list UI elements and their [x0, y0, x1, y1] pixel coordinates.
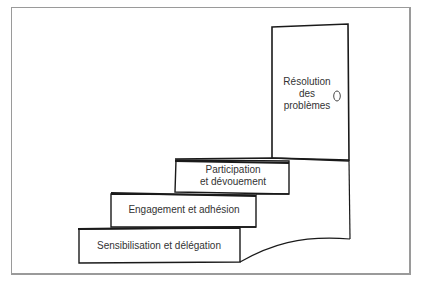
- step-3-line1: Participation: [178, 164, 288, 176]
- stair-curve: [240, 238, 350, 262]
- step-2-label: Engagement et adhésion: [112, 204, 256, 216]
- wall-right: [349, 160, 350, 239]
- step-3-line2: et dévouement: [178, 176, 288, 188]
- step-3-label: Participation et dévouement: [178, 164, 288, 188]
- door-label: Résolution des problèmes: [278, 76, 336, 112]
- step-1-label: Sensibilisation et délégation: [80, 240, 238, 252]
- door-label-line3: problèmes: [278, 100, 336, 112]
- door-label-line2: des: [278, 88, 336, 100]
- door-label-line1: Résolution: [278, 76, 336, 88]
